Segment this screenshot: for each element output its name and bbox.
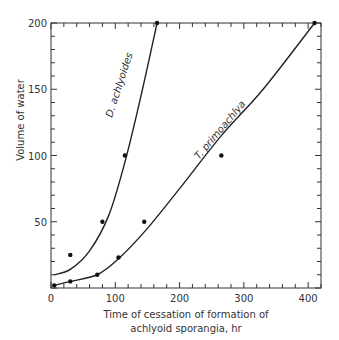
y-tick-label: 100 bbox=[28, 151, 47, 162]
y-tick-label: 50 bbox=[34, 217, 47, 228]
data-point bbox=[68, 253, 72, 257]
x-axis-title-line2: achlyoid sporangia, hr bbox=[130, 323, 242, 334]
x-tick-label: 100 bbox=[106, 293, 125, 304]
data-point bbox=[123, 153, 127, 157]
y-tick-label: 150 bbox=[28, 84, 47, 95]
data-point bbox=[95, 273, 99, 277]
data-point bbox=[155, 21, 159, 25]
y-tick-label: 200 bbox=[28, 18, 47, 29]
data-point bbox=[142, 220, 146, 224]
chart: 010020030040050100150200Time of cessatio… bbox=[0, 0, 339, 340]
series-label-t-primoachlya: T. primoachlya bbox=[192, 98, 247, 161]
data-point bbox=[100, 220, 104, 224]
x-tick-label: 300 bbox=[234, 293, 253, 304]
data-point bbox=[116, 255, 120, 259]
data-point bbox=[52, 283, 56, 287]
data-point bbox=[312, 21, 316, 25]
y-axis-title: Volume of water bbox=[15, 78, 26, 161]
x-tick-label: 200 bbox=[170, 293, 189, 304]
x-axis-title: Time of cessation of formation of bbox=[102, 309, 269, 320]
data-point bbox=[68, 279, 72, 283]
fit-curves bbox=[54, 23, 314, 285]
x-tick-label: 400 bbox=[299, 293, 318, 304]
fit-curve-d-achlyoides bbox=[54, 23, 157, 275]
x-tick-label: 0 bbox=[48, 293, 54, 304]
data-point bbox=[219, 153, 223, 157]
series-label-d-achlyoides: D. achlyoides bbox=[103, 51, 134, 118]
